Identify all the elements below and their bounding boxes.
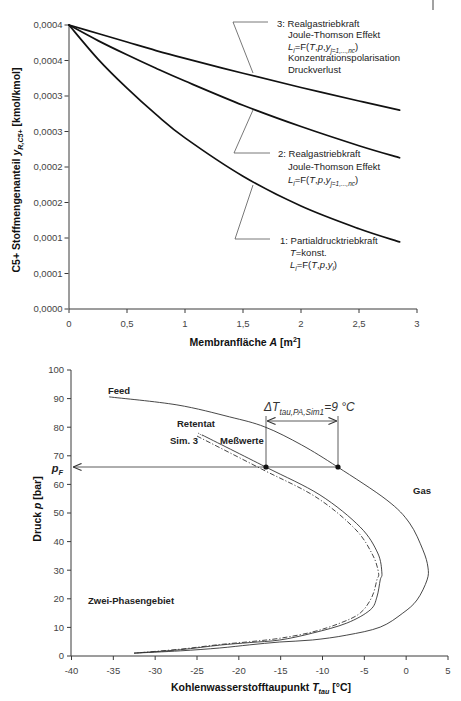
plot-area: 00,511,522,530,00000,00010,00010,00020,0… (33, 19, 419, 328)
pf-label: pF (51, 462, 64, 478)
retentat-point-marker (263, 464, 268, 469)
figure: 00,511,522,530,00000,00010,00010,00020,0… (0, 0, 461, 701)
annotation-1-leader (235, 185, 270, 239)
annotation-2-leader (234, 110, 270, 153)
x-tick-label: 2 (298, 318, 303, 329)
annotation-2-line: 2: Realgastriebkraft (278, 148, 361, 159)
y-tick-label: 50 (53, 507, 64, 518)
x-tick-label: 0 (66, 318, 71, 329)
x-tick-label: -15 (274, 665, 288, 676)
y-tick-label: 0,0004 (33, 55, 62, 66)
annotation-2-line: Joule-Thomson Effekt (288, 161, 381, 172)
y-tick-label: 0,0001 (33, 232, 62, 243)
feed-point-marker (335, 464, 340, 469)
x-tick-label: 0 (404, 665, 409, 676)
y-tick-label: 0,0004 (33, 19, 62, 30)
y-tick-label: 0,0001 (33, 268, 62, 279)
x-tick-label: 1 (182, 318, 187, 329)
x-tick-label: 5 (445, 665, 450, 676)
x-axis-title: Kohlenwasserstofftaupunkt Ttau [°C] (171, 681, 351, 696)
annotation-1: 1: Partialdrucktriebkraft T=konst. Li=F(… (280, 235, 378, 272)
x-tick-label: -10 (316, 665, 330, 676)
y-tick-label: 30 (53, 565, 64, 576)
annotation-1-formula: Li=F(T,p,yi) (290, 259, 337, 272)
annotation-3-line: Konzentrationspolarisation (288, 52, 400, 63)
y-tick-label: 70 (53, 450, 64, 461)
annotation-1-line: T=konst. (290, 247, 327, 258)
messwerte-label: Meßwerte (220, 435, 264, 446)
plot-area: -40-35-30-25-20-15-10-505010203040506070… (48, 364, 451, 675)
y-tick-label: 0 (59, 650, 64, 661)
y-tick-label: 60 (53, 479, 64, 490)
retentat-sim3-curve (134, 436, 379, 653)
two-phase-region-label: Zwei-Phasengebiet (88, 595, 175, 606)
ticks: 00,511,522,530,00000,00010,00010,00020,0… (33, 19, 419, 328)
y-axis-title: C5+ Stoffmengenanteil yR,C5+ [kmol/kmol] (10, 67, 25, 272)
annotation-3-line: Joule-Thomson Effekt (288, 29, 381, 40)
x-tick-label: -40 (65, 665, 79, 676)
delta-t-label: ΔTtau,PA,Sim1=9 °C (263, 400, 355, 417)
annotation-1-line: 1: Partialdrucktriebkraft (280, 235, 378, 246)
y-tick-label: 100 (48, 364, 64, 375)
y-tick-label: 90 (53, 393, 64, 404)
x-tick-label: -5 (360, 665, 368, 676)
x-tick-label: 3 (414, 318, 419, 329)
chart-membrane-area: 00,511,522,530,00000,00010,00010,00020,0… (10, 18, 420, 349)
feed-dew-point-curve (109, 397, 428, 653)
y-tick-label: 0,0002 (33, 197, 62, 208)
x-tick-label: -25 (190, 665, 204, 676)
y-tick-label: 10 (53, 622, 64, 633)
annotation-2-formula: Li=F(T,p,yj=1,...,nc) (288, 174, 358, 188)
y-tick-label: 20 (53, 593, 64, 604)
y-tick-label: 80 (53, 422, 64, 433)
x-tick-label: 2,5 (352, 318, 365, 329)
y-tick-label: 40 (53, 536, 64, 547)
x-tick-label: 1,5 (236, 318, 249, 329)
annotation-3-leader (233, 22, 268, 73)
series-2-realgas-curve (69, 25, 400, 158)
gas-region-label: Gas (413, 485, 431, 496)
x-axis-title: Membranfläche A [m2] (190, 336, 301, 348)
annotation-3-line: Druckverlust (288, 64, 341, 75)
chart-dew-point: -40-35-30-25-20-15-10-505010203040506070… (31, 364, 451, 696)
y-tick-label: 0,0003 (33, 90, 62, 101)
ticks: -40-35-30-25-20-15-10-505010203040506070… (48, 364, 451, 675)
feed-label: Feed (108, 385, 130, 396)
y-tick-label: 0,0000 (33, 303, 62, 314)
annotation-2: 2: Realgastriebkraft Joule-Thomson Effek… (278, 148, 381, 188)
sim3-leader (198, 433, 203, 436)
x-tick-label: 0,5 (120, 318, 133, 329)
x-tick-label: -20 (232, 665, 246, 676)
x-tick-label: -35 (106, 665, 120, 676)
annotation-3-line: 3: Realgastriebkraft (277, 18, 360, 29)
y-tick-label: 0,0003 (33, 126, 62, 137)
retentat-label: Retentat (177, 418, 216, 429)
x-tick-label: -30 (148, 665, 162, 676)
annotation-3: 3: Realgastriebkraft Joule-Thomson Effek… (277, 18, 400, 76)
y-tick-label: 0,0002 (33, 161, 62, 172)
sim3-label: Sim. 3 (170, 435, 198, 446)
y-axis-title: Druck p [bar] (31, 476, 43, 541)
